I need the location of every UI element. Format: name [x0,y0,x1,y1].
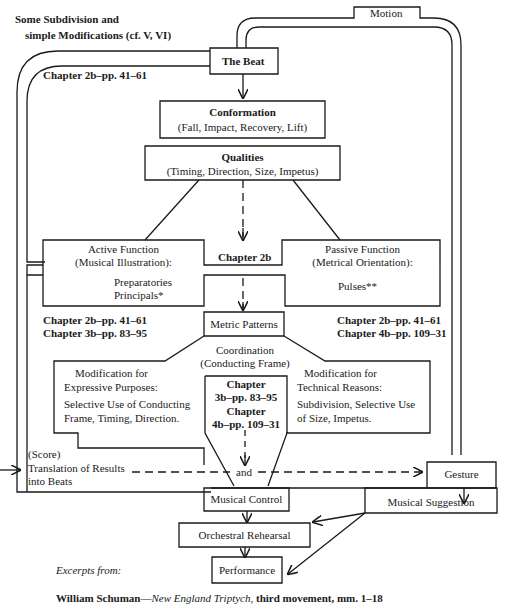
mod-expressive-1: Modification for [75,367,148,380]
center-chapters-3: Chapter [205,405,287,418]
and-label: and [236,466,252,479]
center-chapters-2: 3b–pp. 83–95 [205,391,287,404]
qualities-title: Qualities [145,151,340,164]
performance-box: Performance [212,564,282,577]
mod-expressive-4: Frame, Timing, Direction. [64,412,179,425]
mod-technical-2: Technical Reasons: [297,381,382,394]
passive-item-pulses: Pulses** [338,280,377,293]
musical-suggestion-box: Musical Suggestion [365,496,497,509]
active-function-sub: (Musical Illustration): [43,256,204,269]
flowchart-lines [0,0,508,609]
qualities-sub: (Timing, Direction, Size, Impetus) [145,165,340,178]
conformation-title: Conformation [160,106,325,119]
excerpts-label: Excerpts from: [56,564,121,577]
motion-label: Motion [370,7,402,20]
coordination-title: Coordination [190,344,300,357]
center-chapters-4: 4b–pp. 109–31 [205,418,287,431]
orchestral-rehearsal-box: Orchestral Rehearsal [179,529,310,542]
top-note-line2: simple Modifications (cf. V, VI) [25,29,171,42]
passive-function-sub: (Metrical Orientation): [285,256,440,269]
refs-left-2: Chapter 3b–pp. 83–95 [43,327,147,340]
score-1: (Score) [28,448,60,461]
center-chapters-1: Chapter [205,378,287,391]
passive-function-title: Passive Function [285,243,440,256]
citation-work: New England Triptych, [151,592,253,604]
citation-composer: William Schuman— [56,592,151,604]
top-note-line1: Some Subdivision and [15,13,119,26]
active-function-title: Active Function [43,243,204,256]
refs-right-1: Chapter 2b–pp. 41–61 [337,314,441,327]
ref-beat: Chapter 2b–pp. 41–61 [43,69,147,82]
mod-expressive-2: Expressive Purposes: [64,381,158,394]
gesture-box: Gesture [427,468,496,481]
active-item-preparatories: Preparatories [114,276,172,289]
the-beat-box: The Beat [222,55,264,68]
score-2: Translation of Results [28,462,125,475]
refs-right-2: Chapter 4b–pp. 109–31 [337,327,447,340]
active-item-principals: Principals* [114,289,164,302]
score-3: into Beats [28,475,72,488]
mod-expressive-3: Selective Use of Conducting [64,398,190,411]
mod-technical-1: Modification for [304,367,377,380]
citation: William Schuman—New England Triptych, th… [56,592,383,605]
mod-technical-4: of Size, Impetus. [297,412,372,425]
conformation-sub: (Fall, Impact, Recovery, Lift) [160,121,325,134]
center-chapter-ref: Chapter 2b [218,251,271,264]
coordination-sub: (Conducting Frame) [190,357,300,370]
refs-left-1: Chapter 2b–pp. 41–61 [43,314,147,327]
musical-control-box: Musical Control [204,493,289,506]
mod-technical-3: Subdivision, Selective Use [297,398,415,411]
citation-rest: third movement, mm. 1–18 [253,592,383,604]
metric-patterns-box: Metric Patterns [204,318,284,331]
